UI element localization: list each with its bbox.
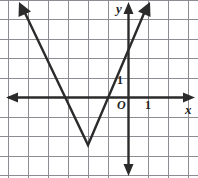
coordinate-plane xyxy=(0,0,198,178)
axis-arrowheads xyxy=(6,2,195,176)
x-axis-label: x xyxy=(185,103,192,116)
y-axis-label: y xyxy=(116,2,122,15)
y-axis-arrow-down xyxy=(124,164,134,176)
axes xyxy=(8,6,186,170)
y-unit-tick-label: 1 xyxy=(117,74,123,86)
x-unit-tick-label: 1 xyxy=(145,99,151,111)
grid-lines xyxy=(0,0,198,178)
x-axis-arrow-left xyxy=(6,93,18,103)
origin-label: O xyxy=(117,99,126,111)
y-axis-arrow-up xyxy=(124,2,134,14)
graph-figure: y x O 1 1 xyxy=(0,0,198,178)
